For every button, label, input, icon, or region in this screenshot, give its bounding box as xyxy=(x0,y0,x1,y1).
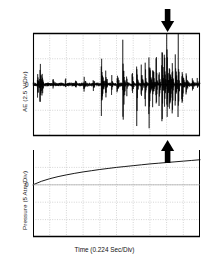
pressure-grid xyxy=(33,150,200,237)
burst-onset-arrow-top-icon xyxy=(161,9,174,32)
ae-waveform-trace xyxy=(33,33,200,128)
ae-zero-tick-label: 0 xyxy=(25,81,29,88)
burst-onset-arrow-bottom-icon xyxy=(161,140,174,163)
pressure-axis-label: Pressure (5 Atm/Div) xyxy=(21,171,28,230)
signal-plot-svg xyxy=(0,0,209,261)
pressure-zero-tick-label: 0 xyxy=(25,181,29,188)
time-axis-label: Time (0.224 Sec/Div) xyxy=(0,246,209,253)
figure-container: AE (2.5 V/Div) Pressure (5 Atm/Div) 0 0 … xyxy=(0,0,209,261)
ae-axis-label: AE (2.5 V/Div) xyxy=(21,71,28,112)
